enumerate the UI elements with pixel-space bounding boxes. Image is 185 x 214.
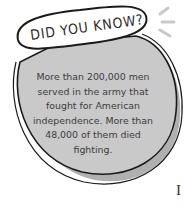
callout-body: More than 200,000 men served in the army… xyxy=(12,70,174,157)
page-edge-text: I xyxy=(176,182,181,199)
callout-body-line: fighting. xyxy=(12,143,174,158)
callout-body-line: fought for American xyxy=(12,99,174,114)
callout-body-line: independence. More than xyxy=(12,114,174,129)
callout-body-line: 48,000 of them died xyxy=(12,128,174,143)
did-you-know-callout: DID YOU KNOW? More than 200,000 men serv… xyxy=(0,0,185,214)
sparkle-icon xyxy=(160,8,174,36)
callout-body-line: served in the army that xyxy=(12,85,174,100)
callout-body-line: More than 200,000 men xyxy=(12,70,174,85)
